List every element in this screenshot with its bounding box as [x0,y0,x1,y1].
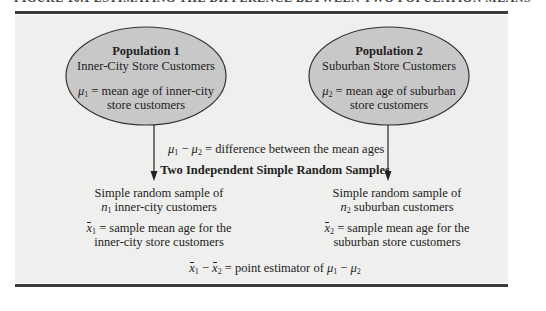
population2-subtitle: Suburban Store Customers [309,59,469,73]
sample1-definition-line2: inner-city store customers [64,235,254,249]
population2-definition-text: = mean age of suburban [332,84,455,98]
sample1-line2-text: inner-city customers [111,200,216,214]
xbar2-symbol: x [212,261,218,275]
population1-definition-text: = mean age of inner-city [88,84,214,98]
sample1-line2: n1 inner-city customers [64,200,254,214]
xbar1-symbol: x [86,221,92,235]
sample1-definition-line1: x1 = sample mean age for the [64,221,254,235]
sample1-definition-text: = sample mean age for the [96,221,231,235]
population1-title: Population 1 [66,44,226,58]
minus-sign: − [199,261,212,275]
population2-definition-line1: μ2 = mean age of suburban [309,84,469,98]
xbar2-symbol: x [324,221,330,235]
sample1-line1: Simple random sample of [64,186,254,200]
sample2-definition-line1: x2 = sample mean age for the [302,221,492,235]
population2-definition-line2: store customers [309,98,469,112]
sample2-definition-text: = sample mean age for the [334,221,469,235]
population1-subtitle: Inner-City Store Customers [66,59,226,73]
sample2-line2-text: suburban customers [351,200,454,214]
difference-text: = difference between the mean ages [202,142,384,156]
sample2-definition-line2: suburban store customers [302,235,492,249]
estimator-text: = point estimator of [222,261,327,275]
samples-heading: Two Independent Simple Random Samples [140,163,410,177]
bottom-rule [15,284,508,287]
population1-definition-line1: μ1 = mean age of inner-city [66,84,226,98]
minus-sign: − [178,142,191,156]
population1-definition-line2: store customers [66,98,226,112]
sample2-line2: n2 suburban customers [302,200,492,214]
minus-sign: − [337,261,350,275]
difference-definition: μ1 − μ2 = difference between the mean ag… [168,142,382,156]
sample2-line1: Simple random sample of [302,186,492,200]
sub-2: 2 [357,267,361,276]
point-estimator: x1 − x2 = point estimator of μ1 − μ2 [160,261,390,275]
xbar1-symbol: x [189,261,195,275]
population2-title: Population 2 [309,44,469,58]
